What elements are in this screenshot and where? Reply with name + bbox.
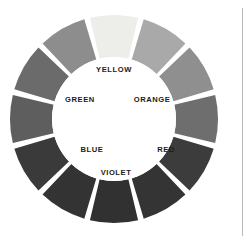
label-green: GREEN [65, 95, 95, 104]
label-orange: ORANGE [134, 95, 171, 104]
color-wheel-figure: YELLOWORANGEREDVIOLETBLUEGREEN [0, 0, 251, 241]
label-blue: BLUE [81, 145, 104, 154]
color-wheel-graphic: YELLOWORANGEREDVIOLETBLUEGREEN [0, 0, 251, 241]
wheel-center-disc [52, 57, 176, 181]
label-yellow: YELLOW [96, 65, 132, 74]
label-violet: VIOLET [101, 168, 132, 177]
label-red: RED [157, 145, 175, 154]
vertical-divider-rule [242, 8, 243, 236]
